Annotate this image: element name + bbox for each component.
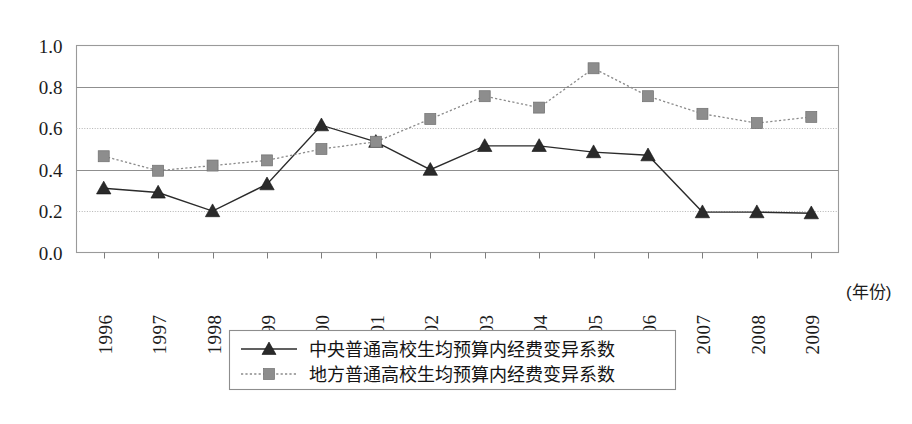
y-tick-1.0: 1.0 <box>39 36 63 57</box>
data-point-2-2008 <box>751 118 762 129</box>
x-tick-label-1998: 1998 <box>204 315 225 355</box>
data-point-1-2002 <box>423 163 437 176</box>
data-point-2-2001 <box>370 136 381 147</box>
x-tick-label-2008: 2008 <box>748 315 769 355</box>
x-tick-label-1997: 1997 <box>149 315 170 355</box>
data-point-2-2009 <box>806 111 817 122</box>
data-point-2-2000 <box>316 144 327 155</box>
y-tick-0.2: 0.2 <box>39 201 63 222</box>
data-point-2-1996 <box>98 151 109 162</box>
y-tick-0.0: 0.0 <box>39 243 63 264</box>
data-point-2-2003 <box>479 91 490 102</box>
x-axis-tick-marks <box>105 253 812 259</box>
x-axis-unit-label: (年份) <box>846 283 891 302</box>
legend-label-1: 中央普通高校生均预算内经费变异系数 <box>309 340 615 360</box>
data-point-2-2004 <box>534 102 545 113</box>
line-chart: 1.00.80.60.40.20.0 199619971998199920002… <box>0 0 912 424</box>
x-tick-label-2009: 2009 <box>802 315 823 355</box>
chart-figure: 1.00.80.60.40.20.0 199619971998199920002… <box>0 0 912 424</box>
x-tick-label-1996: 1996 <box>95 315 116 355</box>
data-point-1-2009 <box>804 206 818 219</box>
y-axis-tick-labels: 1.00.80.60.40.20.0 <box>39 36 63 264</box>
data-point-2-2005 <box>588 63 599 74</box>
data-point-2-1998 <box>207 160 218 171</box>
data-point-2-2006 <box>643 91 654 102</box>
data-point-2-2002 <box>425 113 436 124</box>
data-point-2-1997 <box>153 165 164 176</box>
data-point-1-2008 <box>750 205 764 218</box>
data-point-1-2004 <box>532 139 546 152</box>
plot-area-frame <box>77 46 839 253</box>
data-point-1-1998 <box>205 204 219 217</box>
data-point-2-2007 <box>697 108 708 119</box>
chart-legend: 中央普通高校生均预算内经费变异系数地方普通高校生均预算内经费变异系数 <box>230 331 676 390</box>
legend-marker-square <box>264 369 275 380</box>
y-tick-0.4: 0.4 <box>39 160 63 181</box>
y-tick-0.6: 0.6 <box>39 118 63 139</box>
legend-label-2: 地方普通高校生均预算内经费变异系数 <box>309 365 615 385</box>
x-tick-label-2007: 2007 <box>693 315 714 355</box>
data-point-1-2000 <box>314 118 328 131</box>
y-gridlines <box>77 88 839 212</box>
data-point-1-2003 <box>478 139 492 152</box>
data-point-2-1999 <box>262 155 273 166</box>
y-tick-0.8: 0.8 <box>39 77 63 98</box>
data-point-1-1996 <box>97 181 111 194</box>
data-series-layer <box>97 63 819 219</box>
